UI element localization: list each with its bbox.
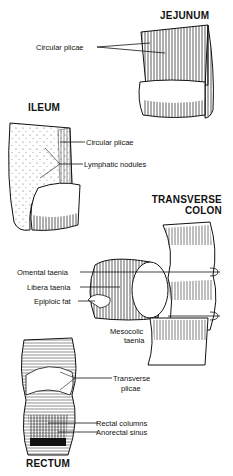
ileum-title: ILEUM [28, 102, 60, 113]
colon-label-libera-taenia: Libera taenia [27, 283, 70, 292]
colon-label-taenia: taenia [124, 336, 144, 345]
rectum-label-rectal-columns: Rectal columns [96, 419, 147, 428]
ileum-drawing [9, 123, 85, 230]
ileum-label-lymphatic-nodules: Lymphatic nodules [84, 160, 146, 169]
jejunum-label-circular-plicae: Circular plicae [36, 43, 84, 52]
colon-label-epiploic-fat: Epiploic fat [34, 297, 71, 306]
transverse-colon-title: TRANSVERSE COLON [146, 194, 222, 216]
jejunum-drawing [97, 25, 213, 118]
intestine-illustration [0, 0, 233, 476]
transverse-colon-drawing [78, 222, 220, 365]
rectum-label-anorectal-sinus: Anorectal sinus [96, 428, 147, 437]
rectum-label-plicae: plicae [121, 384, 141, 393]
ileum-label-circular-plicae: Circular plicae [86, 138, 134, 147]
colon-label-omental-taenia: Omental taenia [17, 268, 68, 277]
rectum-label-transverse: Transverse [113, 374, 150, 383]
rectum-title: RECTUM [26, 458, 70, 469]
colon-label-mesocolic: Mesocolic [110, 327, 143, 336]
transverse-colon-title-line1: TRANSVERSE [146, 194, 222, 205]
jejunum-title: JEJUNUM [160, 10, 209, 21]
rectum-drawing [21, 338, 112, 455]
transverse-colon-title-line2: COLON [146, 205, 222, 216]
